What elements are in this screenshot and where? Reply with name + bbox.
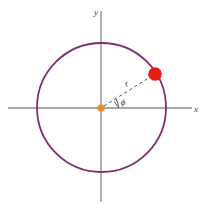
angle-label: ϕ xyxy=(121,97,126,107)
polar-circle-diagram: x y r ϕ xyxy=(0,0,208,211)
particle-marker xyxy=(148,67,162,81)
y-axis-label: y xyxy=(93,7,98,17)
origin-marker-glow xyxy=(96,103,105,112)
radius-dashed-line xyxy=(104,77,151,107)
x-axis-label: x xyxy=(193,104,198,114)
figure-canvas: x y r ϕ xyxy=(0,0,208,211)
radius-label: r xyxy=(122,78,131,89)
